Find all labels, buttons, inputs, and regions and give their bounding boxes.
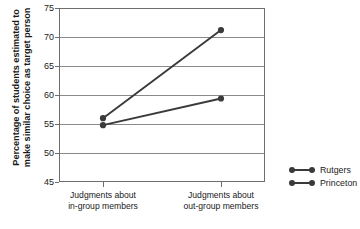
y-tick-label-45: 45 (30, 178, 54, 187)
legend: Rutgers Princeton (289, 163, 357, 189)
gridline-70 (60, 37, 264, 38)
x-tick-mark-in-group (103, 182, 104, 187)
x-tick-label-in-group-line-1: Judgments about (43, 190, 163, 201)
legend-line-marker-icon (289, 165, 315, 174)
gridline-60 (60, 95, 264, 96)
y-tick-label-55: 55 (30, 120, 54, 129)
y-tick-label-75: 75 (30, 4, 54, 13)
legend-label-princeton: Princeton (320, 178, 357, 188)
gridline-65 (60, 66, 264, 67)
legend-item-princeton[interactable]: Princeton (289, 176, 357, 189)
legend-label-rutgers: Rutgers (320, 165, 351, 175)
chart-figure: Percentage of students estimated to make… (0, 0, 360, 229)
y-tick-label-50: 50 (30, 149, 54, 158)
y-axis-title-line-1: Percentage of students estimated to (11, 0, 22, 187)
x-tick-label-in-group: Judgments about in-group members (43, 190, 163, 211)
legend-line-marker-icon (289, 178, 315, 187)
gridline-50 (60, 153, 264, 154)
legend-item-rutgers[interactable]: Rutgers (289, 163, 357, 176)
x-tick-label-out-group-line-2: out-group members (161, 201, 281, 212)
y-tick-label-65: 65 (30, 62, 54, 71)
x-tick-label-out-group-line-1: Judgments about (161, 190, 281, 201)
y-tick-label-60: 60 (30, 91, 54, 100)
gridline-55 (60, 124, 264, 125)
x-tick-mark-out-group (221, 182, 222, 187)
plot-area (59, 8, 265, 182)
y-tick-mark-45 (55, 182, 59, 183)
x-tick-label-in-group-line-2: in-group members (43, 201, 163, 212)
x-tick-label-out-group: Judgments about out-group members (161, 190, 281, 211)
y-tick-label-70: 70 (30, 33, 54, 42)
